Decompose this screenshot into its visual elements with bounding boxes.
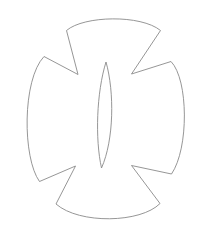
drawing-canvas: [0, 0, 199, 239]
cross-outline-figure: [0, 0, 199, 239]
